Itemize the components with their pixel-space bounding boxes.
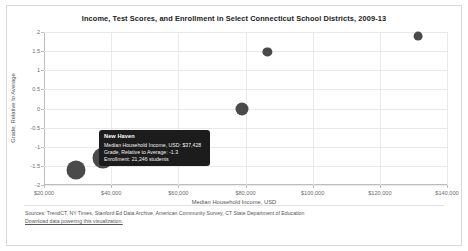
gridline-vertical: [380, 32, 381, 185]
y-axis-label: Grade, Relative to Average: [10, 73, 16, 143]
chart-card: Income, Test Scores, and Enrollment in S…: [0, 0, 468, 251]
y-tick-label: 0: [37, 106, 40, 112]
y-tick-label: 1.5: [32, 48, 40, 54]
x-tick-label: $40,000: [101, 190, 121, 196]
x-tick-mark: [313, 185, 314, 188]
y-tick-label: 2: [37, 29, 40, 35]
y-tick-label: -2: [35, 182, 40, 188]
y-tick-mark: [41, 166, 44, 167]
x-tick-label: $140,000: [435, 190, 458, 196]
x-tick-mark: [111, 185, 112, 188]
download-data-link[interactable]: Download data powering this visualizatio…: [25, 218, 123, 224]
y-tick-mark: [41, 70, 44, 71]
data-bubble[interactable]: [66, 161, 85, 180]
x-tick-label: $80,000: [235, 190, 255, 196]
gridline-vertical: [313, 32, 314, 185]
chart-title: Income, Test Scores, and Enrollment in S…: [0, 14, 468, 23]
y-tick-label: -1.5: [30, 163, 40, 169]
y-tick-label: 1: [37, 67, 40, 73]
tooltip-row-grade: Grade, Relative to Average: -1.3: [104, 149, 206, 156]
footer-divider: [24, 205, 444, 206]
tooltip-row-income: Median Household Income, USD: $37,428: [104, 142, 206, 149]
tooltip-row-enrollment: Enrollment: 21,246 students: [104, 156, 206, 163]
tooltip-title: New Haven: [104, 133, 206, 139]
y-tick-mark: [41, 51, 44, 52]
sources-text: Sources: TrendCT, NY Times, Stanford Ed …: [25, 210, 304, 216]
x-tick-mark: [178, 185, 179, 188]
data-bubble[interactable]: [263, 48, 272, 57]
x-tick-mark: [447, 185, 448, 188]
gridline-vertical: [447, 32, 448, 185]
x-tick-label: $20,000: [34, 190, 54, 196]
y-tick-label: -0.5: [30, 125, 40, 131]
x-tick-mark: [246, 185, 247, 188]
data-bubble[interactable]: [236, 102, 249, 115]
x-tick-label: $100,000: [301, 190, 324, 196]
data-bubble[interactable]: [414, 31, 423, 40]
x-tick-label: $60,000: [168, 190, 188, 196]
y-tick-mark: [41, 89, 44, 90]
y-tick-label: -1: [35, 144, 40, 150]
y-tick-mark: [41, 128, 44, 129]
y-tick-mark: [41, 147, 44, 148]
x-tick-mark: [380, 185, 381, 188]
y-tick-mark: [41, 109, 44, 110]
x-tick-mark: [44, 185, 45, 188]
tooltip: New Haven Median Household Income, USD: …: [99, 130, 210, 166]
y-tick-label: 0.5: [32, 86, 40, 92]
y-tick-mark: [41, 32, 44, 33]
x-tick-label: $120,000: [368, 190, 391, 196]
